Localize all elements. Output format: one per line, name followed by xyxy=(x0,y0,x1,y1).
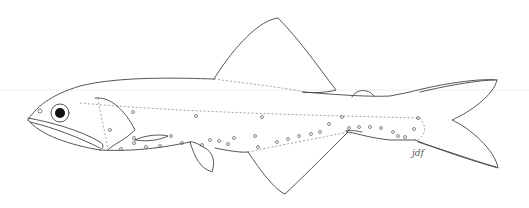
dorsal-fin xyxy=(214,18,336,93)
fish-drawing xyxy=(0,0,529,208)
anal-fin xyxy=(248,131,362,195)
pupil xyxy=(55,108,65,118)
nostril xyxy=(38,109,42,113)
artist-signature: jdf xyxy=(412,148,424,158)
lateral-line xyxy=(80,103,425,140)
body-ventral xyxy=(28,120,415,152)
photophores xyxy=(109,111,420,151)
